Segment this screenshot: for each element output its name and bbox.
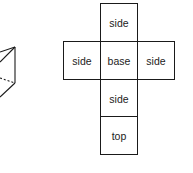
net-cell-side-bottom: side (100, 79, 138, 118)
cell-label: side (146, 55, 165, 67)
cell-label: side (109, 93, 128, 105)
cube-drawing (0, 0, 193, 173)
cell-label: side (72, 55, 91, 67)
cell-label: side (109, 17, 128, 29)
cell-label: top (112, 130, 127, 142)
net-cell-top: top (100, 116, 138, 155)
net-cell-base: base (100, 41, 138, 80)
net-cell-side-left: side (63, 41, 101, 80)
net-cell-side-top: side (100, 3, 138, 42)
cell-label: base (108, 55, 131, 67)
net-cell-side-right: side (137, 41, 175, 80)
